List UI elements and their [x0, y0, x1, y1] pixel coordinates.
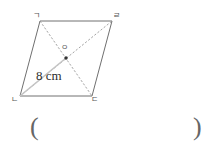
- vertex-label-bottom-right: ㄷ: [91, 96, 98, 104]
- center-point-label: ㅇ: [61, 44, 68, 52]
- vertex-label-top-left: ㄱ: [33, 12, 40, 20]
- vertex-label-bottom-left: ㄴ: [11, 96, 18, 104]
- answer-row: ( ): [0, 112, 212, 146]
- answer-paren-close: ): [193, 112, 202, 142]
- center-point-dot: [64, 56, 67, 59]
- measurement-label: 8 cm: [36, 69, 62, 82]
- answer-blank-field[interactable]: [44, 112, 190, 142]
- answer-paren-open: (: [30, 112, 39, 142]
- vertex-label-top-right: ㄹ: [113, 12, 120, 20]
